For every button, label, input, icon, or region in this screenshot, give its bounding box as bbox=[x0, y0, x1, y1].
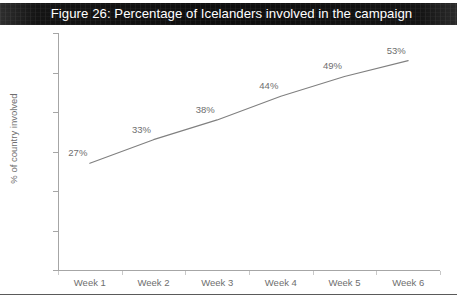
data-point-label: 33% bbox=[132, 124, 151, 135]
data-point-label: 49% bbox=[323, 60, 342, 71]
figure-title-band: Figure 26: Percentage of Icelanders invo… bbox=[0, 3, 457, 25]
figure-title: Figure 26: Percentage of Icelanders invo… bbox=[0, 3, 457, 25]
chart-area: % of country involved 0%10%20%30%40%50%6… bbox=[0, 25, 457, 295]
data-point-label: 44% bbox=[259, 80, 278, 91]
figure-bottom-rule bbox=[0, 294, 457, 295]
data-point-label: 27% bbox=[68, 147, 87, 158]
series-line-chart bbox=[0, 25, 457, 295]
data-point-label: 38% bbox=[196, 104, 215, 115]
data-point-label: 53% bbox=[387, 45, 406, 56]
series-line bbox=[90, 61, 408, 164]
